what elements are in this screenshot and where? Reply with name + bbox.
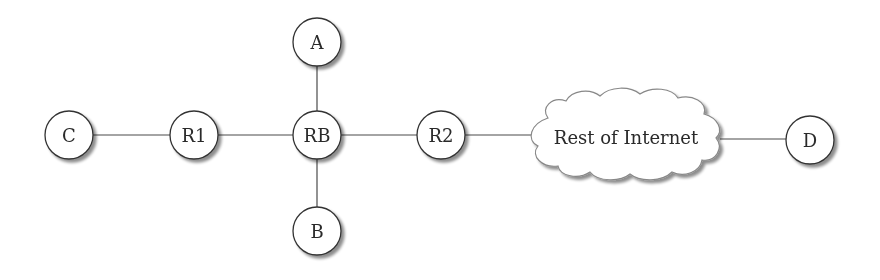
node-a: A bbox=[293, 18, 341, 66]
node-label-r2: R2 bbox=[428, 125, 453, 146]
node-label-d: D bbox=[803, 130, 817, 151]
node-label-a: A bbox=[310, 32, 325, 53]
node-c: C bbox=[45, 111, 93, 159]
node-label-r1: R1 bbox=[181, 125, 206, 146]
node-d: D bbox=[786, 116, 834, 164]
network-diagram: Rest of Internet C R1 A RB B R2 D bbox=[0, 0, 880, 280]
cloud-rest-of-internet: Rest of Internet bbox=[531, 88, 719, 180]
node-label-rb: RB bbox=[304, 125, 331, 146]
node-b: B bbox=[293, 207, 341, 255]
node-rb: RB bbox=[293, 111, 341, 159]
node-r1: R1 bbox=[170, 111, 218, 159]
node-label-b: B bbox=[310, 221, 323, 242]
node-r2: R2 bbox=[417, 111, 465, 159]
cloud-label: Rest of Internet bbox=[554, 127, 699, 148]
node-label-c: C bbox=[62, 125, 76, 146]
